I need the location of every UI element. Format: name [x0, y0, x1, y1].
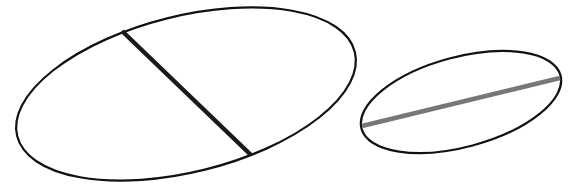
small-ellipse-major-axis-line — [362, 78, 560, 126]
large-ellipse-group — [0, 0, 374, 187]
diagram-canvas — [0, 0, 576, 187]
large-ellipse-minor-axis-line — [122, 31, 251, 155]
small-ellipse-group — [350, 32, 572, 172]
